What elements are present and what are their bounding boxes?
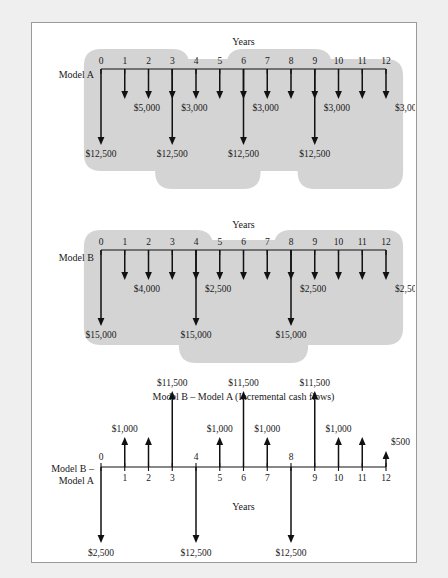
model-b-year-label-2: 2 <box>146 237 151 247</box>
incremental-flow-8-label: $12,500 <box>276 548 307 558</box>
model-b-flow-14-label: $2,500 <box>395 284 415 294</box>
model-a-year-label-3: 3 <box>170 56 175 66</box>
model-b-flow-0-label: $15,000 <box>86 330 117 340</box>
figure-panel: YearsModel A0123456789101112$12,500$5,00… <box>31 22 417 563</box>
incremental-flow-0-label: $2,500 <box>88 548 114 558</box>
model-b-year-label-1: 1 <box>122 237 127 247</box>
incremental-year-label-12: 12 <box>381 473 391 483</box>
incremental-flow-12-arrow-head <box>383 451 390 459</box>
incremental-flow-5-arrow-head <box>216 437 223 445</box>
incremental-side-label-line1: Model B – <box>51 463 95 474</box>
incremental-side-label-line2: Model A <box>59 475 95 486</box>
model-b-year-label-8: 8 <box>289 237 294 247</box>
incremental-flow-6-label: $11,500 <box>228 378 259 388</box>
incremental-year-label-4: 4 <box>194 452 199 462</box>
model-b-flow-1-label: $4,000 <box>134 284 160 294</box>
model-b-side-label: Model B <box>59 252 95 263</box>
model-a-year-label-1: 1 <box>122 56 127 66</box>
model-b-year-label-11: 11 <box>358 237 367 247</box>
incremental-year-label-9: 9 <box>312 473 317 483</box>
model-a-flow-4-label: $12,500 <box>157 149 188 159</box>
model-a-flow-15-label: $3,000 <box>395 103 415 113</box>
model-a-flow-8-label: $12,500 <box>228 149 259 159</box>
model-a-flow-0-label: $12,500 <box>86 149 117 159</box>
model-a-flow-7-label: $3,000 <box>253 103 279 113</box>
incremental-flow-0-arrow-head <box>98 535 105 543</box>
model-b-year-label-0: 0 <box>99 237 104 247</box>
model-b-flow-5-label: $15,000 <box>181 330 212 340</box>
model-a-year-label-6: 6 <box>241 56 246 66</box>
incremental-flow-2-arrow-head <box>145 437 152 445</box>
incremental-flow-1-label: $1,000 <box>112 424 138 434</box>
model-a-year-label-7: 7 <box>265 56 270 66</box>
model-b-year-label-4: 4 <box>194 237 199 247</box>
model-b-flow-4-label: $2,500 <box>205 284 231 294</box>
model-a-axis-title: Years <box>232 36 254 47</box>
incremental-flow-10-label: $1,000 <box>325 424 351 434</box>
incremental-year-label-0: 0 <box>99 452 104 462</box>
incremental-year-label-2: 2 <box>146 473 151 483</box>
incremental-year-label-3: 3 <box>170 473 175 483</box>
incremental-flow-10-arrow-head <box>335 437 342 445</box>
model-a-flow-11-label: $3,000 <box>324 103 350 113</box>
incremental-flow-7-label: $1,000 <box>254 424 280 434</box>
model-b-year-label-5: 5 <box>217 237 222 247</box>
model-b-year-label-10: 10 <box>334 237 344 247</box>
incremental-year-label-10: 10 <box>334 473 344 483</box>
incremental-year-label-1: 1 <box>122 473 127 483</box>
model-b-year-label-3: 3 <box>170 237 175 247</box>
model-b-axis-title: Years <box>232 219 254 230</box>
model-a-year-label-2: 2 <box>146 56 151 66</box>
model-a-flow-1-label: $5,000 <box>134 103 160 113</box>
model-a-year-label-5: 5 <box>217 56 222 66</box>
model-b-year-label-7: 7 <box>265 237 270 247</box>
incremental-year-label-7: 7 <box>265 473 270 483</box>
cash-flow-diagram: YearsModel A0123456789101112$12,500$5,00… <box>32 23 415 561</box>
incremental-flow-8-arrow-head <box>288 535 295 543</box>
model-a-year-label-9: 9 <box>312 56 317 66</box>
model-a-year-label-11: 11 <box>358 56 367 66</box>
model-a-flow-3-label: $3,000 <box>181 103 207 113</box>
incremental-flow-3-label: $11,500 <box>157 378 188 388</box>
model-a-year-label-8: 8 <box>289 56 294 66</box>
model-b-year-label-6: 6 <box>241 237 246 247</box>
incremental-year-label-5: 5 <box>217 473 222 483</box>
model-b-flow-9-label: $2,500 <box>300 284 326 294</box>
incremental-year-label-8: 8 <box>289 452 294 462</box>
incremental-flow-7-arrow-head <box>264 437 271 445</box>
incremental-flow-12-label: $500 <box>391 437 410 447</box>
incremental-axis-title: Years <box>232 501 254 512</box>
model-a-year-label-4: 4 <box>194 56 199 66</box>
model-a-group-blob <box>298 59 403 189</box>
incremental-year-label-11: 11 <box>358 473 367 483</box>
model-b-group-blob <box>274 230 403 345</box>
incremental-flow-4-arrow-head <box>193 535 200 543</box>
incremental-flow-11-arrow-head <box>359 437 366 445</box>
model-a-year-label-0: 0 <box>99 56 104 66</box>
model-b-year-label-9: 9 <box>312 237 317 247</box>
model-a-year-label-10: 10 <box>334 56 344 66</box>
model-b-year-label-12: 12 <box>381 237 391 247</box>
model-b-flow-10-label: $15,000 <box>276 330 307 340</box>
incremental-year-label-6: 6 <box>241 473 246 483</box>
incremental-flow-9-label: $11,500 <box>299 378 330 388</box>
incremental-flow-4-label: $12,500 <box>181 548 212 558</box>
model-a-flow-12-label: $12,500 <box>299 149 330 159</box>
incremental-flow-1-arrow-head <box>121 437 128 445</box>
model-a-side-label: Model A <box>59 69 95 80</box>
model-a-year-label-12: 12 <box>381 56 391 66</box>
incremental-flow-5-label: $1,000 <box>207 424 233 434</box>
